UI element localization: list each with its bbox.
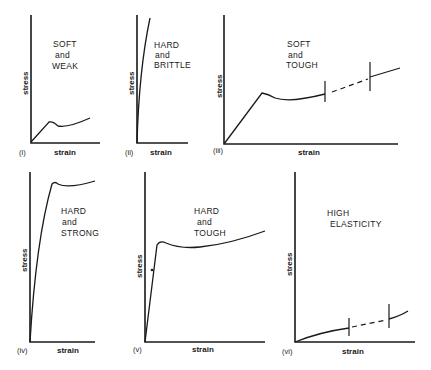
- x-axis-label: strain: [192, 345, 214, 354]
- title-line-2: ELASTICITY: [330, 219, 382, 229]
- y-axis-label: stress: [20, 248, 29, 272]
- title-line-1: SOFT: [53, 39, 77, 49]
- title-line-3: TOUGH: [194, 228, 226, 238]
- panel-number: (i): [19, 148, 26, 157]
- panel-number: (iv): [17, 346, 28, 355]
- title-line-3: TOUGH: [286, 60, 318, 70]
- title-line-1: HIGH: [327, 208, 349, 218]
- title-line-2: and: [197, 217, 212, 227]
- title-line-2: and: [155, 50, 170, 60]
- panel-iv: HARD and STRONG stress strain (iv): [17, 172, 99, 355]
- panel-number: (iii): [213, 146, 223, 155]
- title-line-1: HARD: [61, 206, 86, 216]
- y-axis-label: stress: [215, 74, 224, 98]
- panel-number: (vi): [282, 347, 293, 356]
- x-axis-label: strain: [150, 148, 172, 157]
- title-line-3: BRITTLE: [154, 60, 191, 70]
- stress-strain-curve: [295, 328, 349, 342]
- title-line-2: and: [62, 217, 77, 227]
- stress-strain-curve: [137, 18, 150, 143]
- stress-strain-curve-end: [389, 311, 408, 319]
- title-line-2: and: [288, 50, 303, 60]
- panel-i: SOFT and WEAK stress strain (i): [19, 15, 100, 157]
- title-line-1: HARD: [154, 40, 179, 50]
- panel-number: (v): [133, 345, 142, 354]
- stress-strain-curve: [31, 118, 90, 142]
- axes: [31, 15, 100, 143]
- stress-strain-curve: [224, 93, 325, 144]
- title-line-1: HARD: [194, 206, 219, 216]
- y-axis-label: stress: [285, 252, 294, 276]
- panel-v: HARD and TOUGH stress strain (v): [133, 172, 265, 354]
- axis-break-dashed: [332, 79, 368, 92]
- axes: [145, 172, 265, 342]
- title-line-2: and: [55, 50, 70, 60]
- y-axis-label: stress: [127, 71, 136, 95]
- axes: [224, 15, 398, 144]
- point-marker: [151, 269, 154, 272]
- stress-strain-curve: [145, 231, 265, 342]
- title-line-3: STRONG: [61, 228, 99, 238]
- panel-ii: HARD and BRITTLE stress strain (ii): [125, 15, 191, 157]
- x-axis-label: strain: [57, 346, 79, 355]
- panel-number: (ii): [125, 148, 134, 157]
- title-line-3: WEAK: [52, 61, 78, 71]
- stress-strain-curve-end: [370, 68, 400, 77]
- x-axis-label: strain: [54, 148, 76, 157]
- stress-strain-figure: SOFT and WEAK stress strain (i) HARD and…: [0, 0, 431, 370]
- panel-vi: HIGH ELASTICITY stress strain (vi): [282, 172, 415, 356]
- panel-iii: SOFT and TOUGH stress strain (iii): [213, 15, 400, 157]
- axes: [137, 15, 188, 143]
- title-line-1: SOFT: [287, 39, 311, 49]
- y-axis-label: stress: [135, 254, 144, 278]
- x-axis-label: strain: [342, 347, 364, 356]
- axis-break-dashed: [352, 320, 386, 327]
- axes: [30, 172, 95, 342]
- x-axis-label: strain: [298, 148, 320, 157]
- y-axis-label: stress: [21, 71, 30, 95]
